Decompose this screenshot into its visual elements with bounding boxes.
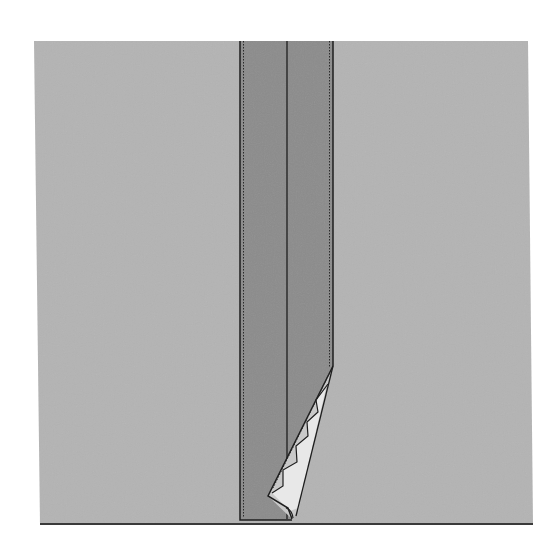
strip-left-half [240, 41, 287, 520]
sewing-diagram [0, 0, 560, 557]
